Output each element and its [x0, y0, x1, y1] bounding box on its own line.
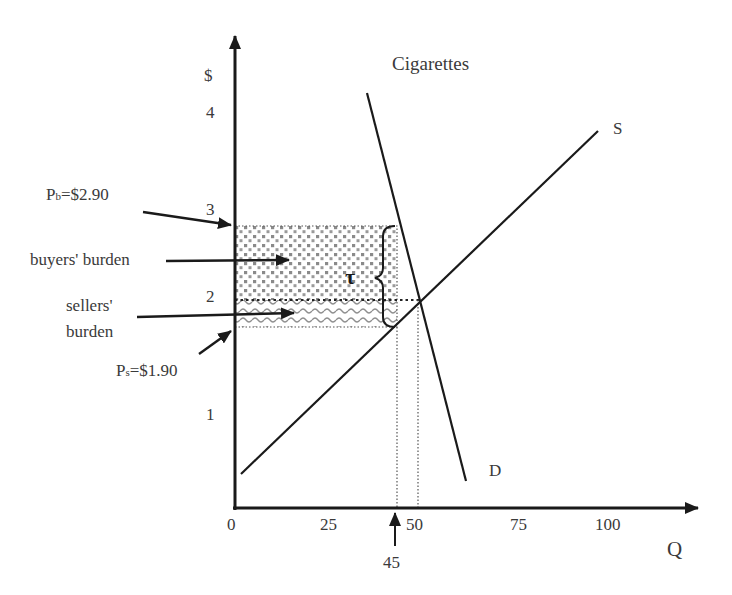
demand-label: D	[489, 462, 501, 479]
seller-price-value: =$1.90	[130, 361, 178, 380]
x-tick-25: 25	[320, 516, 337, 533]
x-tick-0: 0	[227, 516, 236, 533]
tax-symbol: τ	[345, 266, 355, 288]
sellers-burden-label-line2: burden	[66, 323, 113, 340]
x-tick-100: 100	[595, 516, 621, 533]
buyers-burden-label: buyers' burden	[30, 251, 130, 268]
seller-price-label: Ps=$1.90	[116, 362, 178, 379]
q-tax-label: 45	[383, 554, 400, 571]
y-axis-label: $	[204, 67, 213, 84]
x-tick-75: 75	[510, 516, 527, 533]
y-tick-4: 4	[206, 104, 215, 121]
y-tick-2: 2	[206, 288, 215, 305]
pb-arrow	[143, 212, 231, 225]
buyer-price-label: Pb=$2.90	[46, 186, 109, 203]
y-tick-1: 1	[206, 406, 215, 423]
x-tick-50: 50	[406, 516, 423, 533]
ps-arrow	[199, 331, 231, 354]
x-axis-label: Q	[667, 539, 682, 560]
y-tick-3: 3	[206, 201, 215, 218]
sellers-burden-label-line1: sellers'	[66, 297, 113, 314]
buyers-burden-arrow	[166, 260, 289, 261]
chart-title: Cigarettes	[392, 54, 469, 73]
supply-label: S	[613, 120, 622, 137]
burden-regions	[235, 226, 397, 327]
buyers-burden-region	[235, 226, 397, 300]
buyer-price-value: =$2.90	[61, 185, 109, 204]
